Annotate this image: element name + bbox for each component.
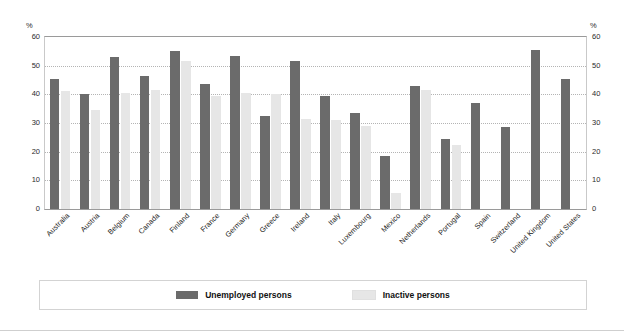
bar-france-unemployed: [200, 84, 210, 209]
bar-france-inactive: [211, 96, 221, 209]
bar-mexico-unemployed: [380, 156, 390, 209]
y-tick-left-40: 40: [18, 90, 40, 98]
bar-group: [410, 37, 431, 209]
x-label-canada: Canada: [137, 211, 162, 236]
bar-group: [441, 37, 462, 209]
bar-group: [290, 37, 311, 209]
bar-belgium-inactive: [121, 93, 131, 209]
y-tick-left-20: 20: [18, 148, 40, 156]
y-axis-unit-left: %: [26, 22, 33, 30]
cut-off-title: [88, 0, 508, 5]
bar-netherlands-unemployed: [410, 86, 420, 209]
y-tick-right-40: 40: [592, 90, 614, 98]
bar-group: [471, 37, 492, 209]
bar-germany-unemployed: [230, 56, 240, 209]
bar-greece-unemployed: [260, 116, 270, 209]
legend-label-unemployed: Unemployed persons: [205, 290, 291, 300]
bar-austria-unemployed: [80, 94, 90, 209]
x-label-ireland: Ireland: [289, 211, 312, 234]
x-label-netherlands: Netherlands: [397, 211, 432, 246]
bar-group: [110, 37, 131, 209]
bar-italy-inactive: [331, 120, 341, 209]
bar-spain-unemployed: [471, 103, 481, 209]
bar-group: [50, 37, 71, 209]
bar-group: [230, 37, 251, 209]
bar-group: [170, 37, 191, 209]
x-label-australia: Australia: [44, 211, 71, 238]
bar-belgium-unemployed: [110, 57, 120, 209]
bar-portugal-inactive: [452, 145, 462, 210]
legend-swatch-unemployed: [176, 291, 198, 299]
bar-mexico-inactive: [391, 193, 401, 209]
chart-legend: Unemployed persons Inactive persons: [39, 280, 587, 310]
y-tick-left-0: 0: [18, 205, 40, 213]
x-label-germany: Germany: [224, 211, 252, 239]
x-label-belgium: Belgium: [106, 211, 132, 237]
bar-canada-unemployed: [140, 76, 150, 209]
y-tick-right-50: 50: [592, 62, 614, 70]
bar-group: [350, 37, 371, 209]
bar-group: [380, 37, 401, 209]
bar-united-states-unemployed: [561, 79, 571, 209]
bar-australia-unemployed: [50, 79, 60, 209]
y-tick-right-0: 0: [592, 205, 614, 213]
bottom-divider: [0, 330, 624, 331]
bar-greece-inactive: [271, 94, 281, 209]
bar-ireland-inactive: [301, 119, 311, 209]
bar-australia-inactive: [61, 91, 71, 209]
y-tick-right-30: 30: [592, 119, 614, 127]
bar-germany-inactive: [241, 93, 251, 209]
y-tick-right-60: 60: [592, 33, 614, 41]
x-label-finland: Finland: [168, 211, 192, 235]
bar-group: [140, 37, 161, 209]
bar-group: [80, 37, 101, 209]
y-tick-left-30: 30: [18, 119, 40, 127]
bar-group: [501, 37, 522, 209]
bar-ireland-unemployed: [290, 61, 300, 209]
bar-group: [320, 37, 341, 209]
bar-finland-unemployed: [170, 51, 180, 209]
bar-united-kingdom-unemployed: [531, 50, 541, 209]
bar-italy-unemployed: [320, 96, 330, 209]
bar-finland-inactive: [181, 61, 191, 209]
bar-group: [200, 37, 221, 209]
x-label-portugal: Portugal: [436, 211, 462, 237]
y-tick-left-60: 60: [18, 33, 40, 41]
x-label-france: France: [199, 211, 222, 234]
bar-portugal-unemployed: [441, 139, 451, 209]
x-label-mexico: Mexico: [379, 211, 402, 234]
bar-netherlands-inactive: [421, 90, 431, 209]
bar-group: [260, 37, 281, 209]
x-label-italy: Italy: [326, 211, 342, 227]
legend-label-inactive: Inactive persons: [383, 290, 450, 300]
legend-swatch-inactive: [352, 290, 376, 300]
bar-group: [531, 37, 552, 209]
y-axis-unit-right: %: [590, 22, 597, 30]
bar-luxembourg-inactive: [361, 126, 371, 209]
y-tick-left-50: 50: [18, 62, 40, 70]
x-label-austria: Austria: [79, 211, 102, 234]
bar-canada-inactive: [151, 90, 161, 209]
chart-figure: % % 00101020203030404050506060 Australia…: [0, 0, 624, 336]
bar-austria-inactive: [91, 110, 101, 209]
bar-group: [561, 37, 582, 209]
legend-item-unemployed: Unemployed persons: [176, 290, 291, 300]
x-label-greece: Greece: [258, 211, 282, 235]
x-label-spain: Spain: [472, 211, 492, 231]
y-tick-left-10: 10: [18, 176, 40, 184]
legend-item-inactive: Inactive persons: [352, 290, 450, 300]
bar-switzerland-unemployed: [501, 127, 511, 209]
y-tick-right-10: 10: [592, 176, 614, 184]
bar-series-layer: [45, 37, 586, 209]
bar-luxembourg-unemployed: [350, 113, 360, 209]
y-tick-right-20: 20: [592, 148, 614, 156]
x-axis-labels: AustraliaAustriaBelgiumCanadaFinlandFran…: [45, 211, 586, 267]
